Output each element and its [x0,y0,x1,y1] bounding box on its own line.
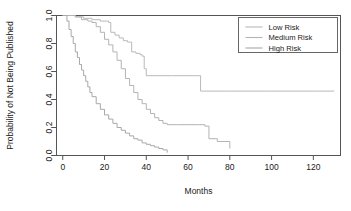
x-tick-label: 40 [142,162,152,172]
y-tick-label: 0.0 [44,149,54,161]
x-tick-label: 80 [225,162,235,172]
legend-label-0: Low Risk [269,23,300,32]
y-tick-label: 0.2 [44,121,54,133]
curve-high-risk [63,16,167,153]
y-axis-title: Probability of Not Being Published [5,21,15,150]
y-tick-label: 0.4 [44,93,54,105]
chart-canvas: 020406080100120 0.00.20.40.60.81.0 Month… [0,0,351,211]
legend: Low RiskMedium RiskHigh Risk [239,18,338,53]
x-tick-label: 20 [100,162,110,172]
y-tick-label: 0.8 [44,37,54,49]
survival-curve-figure: 020406080100120 0.00.20.40.60.81.0 Month… [0,0,351,211]
x-tick-label: 100 [264,162,278,172]
x-tick-label: 120 [306,162,320,172]
x-tick-label: 0 [60,162,65,172]
legend-label-1: Medium Risk [269,33,313,42]
x-axis-ticks [63,156,314,161]
x-axis-tick-labels: 020406080100120 [60,162,320,172]
legend-label-2: High Risk [269,44,302,53]
y-tick-label: 1.0 [44,9,54,21]
y-axis-ticks [52,16,57,156]
y-axis-tick-labels: 0.00.20.40.60.81.0 [44,9,54,161]
x-axis-title: Months [185,186,213,196]
x-tick-label: 60 [183,162,193,172]
y-tick-label: 0.6 [44,65,54,77]
